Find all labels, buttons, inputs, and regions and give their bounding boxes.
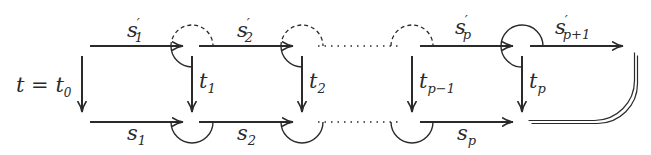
bottom-arc-1 xyxy=(171,122,213,143)
label-s1: s1 xyxy=(127,121,146,148)
label-sp-prime: s′p xyxy=(455,13,472,42)
label-tp: tp xyxy=(529,69,546,96)
bottom-arc-3 xyxy=(391,122,433,143)
quarter-arc-2 xyxy=(281,46,302,67)
commutative-diagram: t = t0 s′1 s′2 s′p s′p+1 s1 s2 sp t1 t2 … xyxy=(0,0,651,155)
dashed-arc-1 xyxy=(171,25,213,46)
dashed-arc-3 xyxy=(391,25,433,46)
bottom-arc-2 xyxy=(281,122,323,143)
label-t1: t1 xyxy=(199,69,216,96)
double-line-outer xyxy=(532,56,638,124)
quarter-arc-p xyxy=(501,46,522,67)
label-t2: t2 xyxy=(309,69,326,96)
label-s2-prime: s′2 xyxy=(237,16,253,45)
label-sp: sp xyxy=(457,121,477,148)
label-sp1-prime: s′p+1 xyxy=(555,13,590,42)
label-tp-1: tp−1 xyxy=(419,69,455,96)
dashed-arc-2 xyxy=(281,25,323,46)
quarter-arc-1 xyxy=(171,46,192,67)
label-s1-prime: s′1 xyxy=(127,16,143,45)
solid-arc-top-p xyxy=(501,25,543,46)
label-s2: s2 xyxy=(237,121,256,148)
label-t-equals-t0: t = t0 xyxy=(16,73,72,100)
